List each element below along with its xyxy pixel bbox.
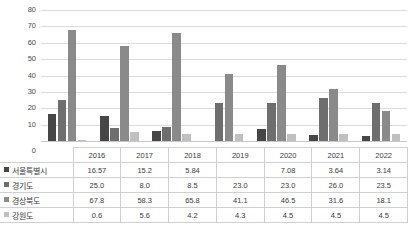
bar-group-2018 — [146, 10, 198, 141]
bar-group-2021 — [302, 10, 354, 141]
series-value-table: 2016201720182019202020212022 서울특별시16.571… — [0, 147, 408, 223]
bar-경상북도-2017 — [120, 46, 129, 141]
cell-서울특별시-2017: 15.2 — [121, 163, 169, 178]
table-row: 강원도0.65.64.24.34.54.54.5 — [0, 208, 408, 223]
legend-label: 경상북도 — [12, 197, 40, 206]
y-axis: 8070605040302010 — [0, 10, 40, 141]
bar-서울특별시-2016 — [48, 114, 57, 141]
y-tick-80: 80 — [28, 6, 36, 14]
bar-서울특별시-2021 — [309, 135, 318, 141]
bar-group-2016 — [41, 10, 93, 141]
table-header-2021: 2021 — [312, 148, 360, 163]
cell-경상북도-2019: 41.1 — [216, 193, 264, 208]
cell-강원도-2020: 4.5 — [264, 208, 312, 223]
cell-서울특별시-2021: 3.64 — [312, 163, 360, 178]
y-tick-zero: 0 — [0, 147, 40, 155]
table-body: 서울특별시16.5715.25.847.083.643.14경기도25.08.0… — [0, 163, 408, 223]
y-tick-50: 50 — [28, 55, 36, 63]
bar-group-2017 — [93, 10, 145, 141]
cell-경기도-2017: 8.0 — [121, 178, 169, 193]
cell-경상북도-2017: 58.3 — [121, 193, 169, 208]
y-tick-70: 70 — [28, 23, 36, 31]
bar-경기도-2022 — [372, 103, 381, 141]
bar-강원도-2018 — [182, 134, 191, 141]
table-header-2022: 2022 — [360, 148, 408, 163]
plot-area: 8070605040302010 — [0, 10, 408, 158]
y-tick-10: 10 — [28, 121, 36, 129]
cell-경기도-2020: 23.0 — [264, 178, 312, 193]
bar-경기도-2020 — [267, 103, 276, 141]
legend-swatch-icon — [4, 167, 9, 172]
legend-item-서울특별시: 서울특별시 — [0, 163, 73, 178]
cell-경상북도-2016: 67.8 — [73, 193, 121, 208]
cell-경상북도-2021: 31.6 — [312, 193, 360, 208]
bar-서울특별시-2022 — [362, 136, 371, 141]
legend-swatch-icon — [4, 182, 9, 187]
legend-label: 서울특별시 — [12, 167, 47, 176]
table-row: 경상북도67.858.365.841.146.531.618.1 — [0, 193, 408, 208]
legend-label: 경기도 — [12, 182, 33, 191]
bar-경기도-2018 — [162, 127, 171, 141]
legend-swatch-icon — [4, 197, 9, 202]
table-header-2017: 2017 — [121, 148, 169, 163]
cell-경기도-2019: 23.0 — [216, 178, 264, 193]
data-table: 0 2016201720182019202020212022 서울특별시16.5… — [0, 147, 408, 223]
table-header-2018: 2018 — [169, 148, 217, 163]
cell-경기도-2016: 25.0 — [73, 178, 121, 193]
cell-경상북도-2022: 18.1 — [360, 193, 408, 208]
gridline-0 — [41, 141, 407, 142]
table-row: 서울특별시16.5715.25.847.083.643.14 — [0, 163, 408, 178]
bar-서울특별시-2020 — [257, 129, 266, 141]
bar-강원도-2020 — [287, 134, 296, 141]
bar-경상북도-2019 — [225, 74, 234, 141]
bar-경기도-2019 — [215, 103, 224, 141]
legend-item-경기도: 경기도 — [0, 178, 73, 193]
cell-강원도-2016: 0.6 — [73, 208, 121, 223]
legend-label: 강원도 — [12, 212, 33, 221]
bar-강원도-2022 — [392, 134, 401, 141]
table-row: 경기도25.08.08.523.023.026.023.5 — [0, 178, 408, 193]
cell-서울특별시-2016: 16.57 — [73, 163, 121, 178]
bar-경상북도-2021 — [329, 89, 338, 141]
bar-groups — [41, 10, 407, 141]
bar-경기도-2016 — [58, 100, 67, 141]
y-tick-20: 20 — [28, 105, 36, 113]
bar-경기도-2017 — [110, 128, 119, 141]
chart-container: 8070605040302010 0 201620172018201920202… — [0, 0, 408, 236]
y-tick-30: 30 — [28, 88, 36, 96]
bar-group-2019 — [198, 10, 250, 141]
bar-group-2022 — [355, 10, 407, 141]
bar-강원도-2017 — [130, 132, 139, 141]
table-header-2016: 2016 — [73, 148, 121, 163]
cell-경기도-2021: 26.0 — [312, 178, 360, 193]
bar-경상북도-2016 — [68, 30, 77, 141]
cell-서울특별시-2019 — [216, 163, 264, 178]
bar-서울특별시-2017 — [100, 116, 109, 141]
bar-경상북도-2020 — [277, 65, 286, 141]
table-header-row: 2016201720182019202020212022 — [0, 148, 408, 163]
cell-경상북도-2018: 65.8 — [169, 193, 217, 208]
cell-서울특별시-2020: 7.08 — [264, 163, 312, 178]
y-tick-60: 60 — [28, 39, 36, 47]
bar-서울특별시-2018 — [152, 131, 161, 141]
table-header-2020: 2020 — [264, 148, 312, 163]
cell-강원도-2017: 5.6 — [121, 208, 169, 223]
bar-경상북도-2022 — [382, 111, 391, 141]
legend-swatch-icon — [4, 212, 9, 217]
bar-경기도-2021 — [319, 98, 328, 141]
cell-서울특별시-2022: 3.14 — [360, 163, 408, 178]
bar-강원도-2019 — [235, 134, 244, 141]
cell-경상북도-2020: 46.5 — [264, 193, 312, 208]
bar-경상북도-2018 — [172, 33, 181, 141]
bar-group-2020 — [250, 10, 302, 141]
cell-경기도-2022: 23.5 — [360, 178, 408, 193]
legend-item-강원도: 강원도 — [0, 208, 73, 223]
cell-강원도-2019: 4.3 — [216, 208, 264, 223]
cell-경기도-2018: 8.5 — [169, 178, 217, 193]
bar-강원도-2016 — [78, 140, 87, 141]
cell-강원도-2021: 4.5 — [312, 208, 360, 223]
cell-서울특별시-2018: 5.84 — [169, 163, 217, 178]
legend-item-경상북도: 경상북도 — [0, 193, 73, 208]
table-header-2019: 2019 — [216, 148, 264, 163]
cell-강원도-2022: 4.5 — [360, 208, 408, 223]
